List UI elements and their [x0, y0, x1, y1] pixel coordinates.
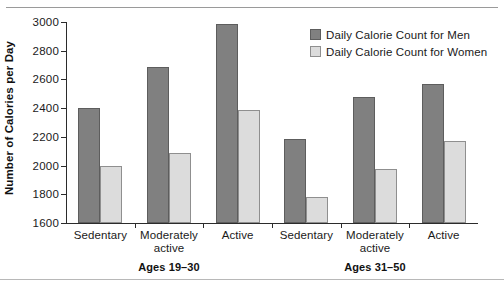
bar-men-1: [147, 67, 169, 223]
bar-women-5: [444, 141, 466, 223]
bar-women-1: [169, 153, 191, 223]
bar-women-2: [238, 110, 260, 223]
y-tick-mark: [61, 51, 67, 52]
bar-women-3: [306, 197, 328, 223]
x-tick-mark: [135, 223, 136, 228]
legend-swatch-women: [310, 46, 321, 57]
legend-swatch-men: [310, 29, 321, 40]
y-tick-label: 1800: [33, 188, 59, 200]
y-tick-mark: [61, 79, 67, 80]
page-bottom-rule: [0, 279, 504, 280]
legend-item-men: Daily Calorie Count for Men: [310, 27, 487, 42]
x-category-label-line: active: [330, 242, 420, 255]
bar-men-3: [284, 139, 306, 223]
page-top-rule: [6, 7, 498, 8]
x-group-label-0: Ages 19–30: [99, 261, 239, 273]
chart-figure: Number of Calories per Day 1600180020002…: [0, 0, 504, 281]
bar-men-5: [422, 84, 444, 223]
legend-item-women: Daily Calorie Count for Women: [310, 44, 487, 59]
x-category-label-5: Active: [399, 229, 489, 242]
bar-men-0: [78, 108, 100, 223]
y-tick-label: 2600: [33, 73, 59, 85]
y-tick-label: 2800: [33, 45, 59, 57]
y-tick-label: 2000: [33, 160, 59, 172]
y-tick-mark: [61, 223, 67, 224]
x-category-label-line: Active: [399, 229, 489, 242]
bar-women-4: [375, 169, 397, 223]
x-tick-mark: [409, 223, 410, 228]
y-axis-title: Number of Calories per Day: [2, 18, 16, 218]
x-tick-mark: [272, 223, 273, 228]
y-tick-label: 3000: [33, 16, 59, 28]
y-tick-mark: [61, 166, 67, 167]
y-tick-label: 1600: [33, 217, 59, 229]
y-tick-mark: [61, 108, 67, 109]
x-category-label-line: active: [124, 242, 214, 255]
y-axis-title-text: Number of Calories per Day: [3, 41, 15, 195]
bar-women-0: [100, 166, 122, 223]
x-tick-mark: [341, 223, 342, 228]
x-group-label-1: Ages 31–50: [305, 261, 445, 273]
legend-label: Daily Calorie Count for Women: [326, 46, 487, 58]
bar-men-4: [353, 97, 375, 223]
legend-label: Daily Calorie Count for Men: [326, 29, 470, 41]
chart-legend: Daily Calorie Count for MenDaily Calorie…: [310, 27, 487, 61]
y-tick-label: 2200: [33, 131, 59, 143]
y-tick-mark: [61, 137, 67, 138]
y-tick-mark: [61, 194, 67, 195]
y-tick-mark: [61, 22, 67, 23]
bar-men-2: [216, 24, 238, 223]
y-tick-label: 2400: [33, 102, 59, 114]
x-tick-mark: [203, 223, 204, 228]
